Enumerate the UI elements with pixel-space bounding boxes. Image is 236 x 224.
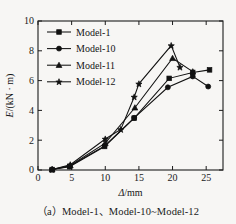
x-tick-label: 10 bbox=[100, 172, 110, 183]
y-axis-title: E/(kN · m) bbox=[4, 74, 16, 119]
x-tick-label: 0 bbox=[36, 172, 41, 183]
legend-label: Model-1 bbox=[76, 27, 110, 38]
y-tick-label: 0 bbox=[29, 164, 34, 175]
x-tick-label: 20 bbox=[168, 172, 178, 183]
figure-caption: （a）Model-1、Model-10~Model-12 bbox=[0, 203, 236, 218]
y-tick-label: 8 bbox=[29, 45, 34, 56]
data-point-marker bbox=[132, 115, 137, 120]
x-tick-label: 15 bbox=[134, 172, 144, 183]
data-point-marker bbox=[57, 46, 62, 51]
data-point-marker bbox=[190, 74, 195, 79]
data-point-marker bbox=[165, 85, 170, 90]
line-chart: 05101520250246810 Model-1Model-10Model-1… bbox=[0, 0, 236, 224]
y-tick-label: 10 bbox=[24, 15, 34, 26]
x-tick-label: 5 bbox=[69, 172, 74, 183]
legend-label: Model-10 bbox=[76, 43, 115, 54]
y-tick-label: 2 bbox=[29, 135, 34, 146]
x-tick-label: 25 bbox=[201, 172, 211, 183]
data-point-marker bbox=[57, 30, 62, 35]
legend-label: Model-11 bbox=[76, 60, 115, 71]
data-point-marker bbox=[206, 84, 211, 89]
data-point-marker bbox=[207, 68, 212, 73]
legend-label: Model-12 bbox=[76, 76, 115, 87]
figure-panel: 05101520250246810 Model-1Model-10Model-1… bbox=[0, 0, 236, 224]
y-tick-label: 6 bbox=[29, 75, 34, 86]
y-tick-label: 4 bbox=[29, 105, 34, 116]
x-axis-title: Δ/mm bbox=[117, 187, 142, 198]
data-point-marker bbox=[167, 76, 172, 81]
